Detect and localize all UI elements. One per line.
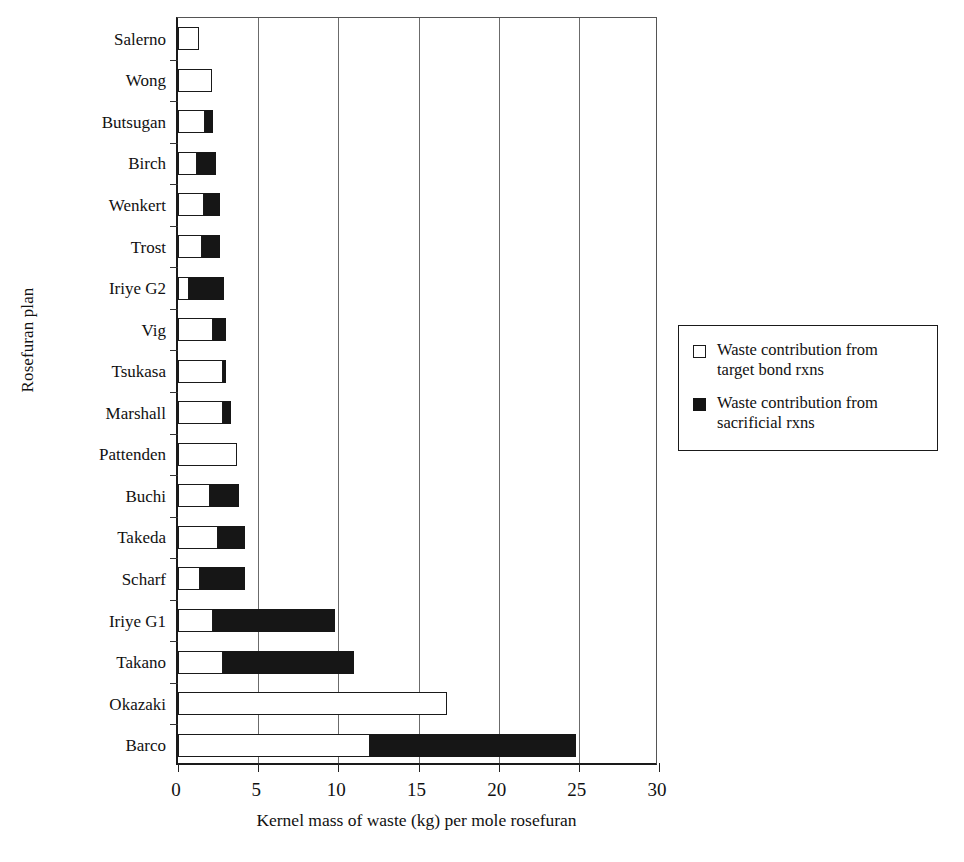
bar-row: Salerno — [178, 18, 656, 60]
y-axis-category-label: Iriye G2 — [109, 280, 166, 297]
chart-figure: Rosefuran plan SalernoWongButsuganBirchW… — [0, 0, 964, 862]
x-axis-tick-label: 20 — [487, 779, 506, 801]
y-axis-tick — [170, 475, 178, 476]
bar-row: Vig — [178, 309, 656, 351]
bar-row: Trost — [178, 226, 656, 268]
bar-row: Wenkert — [178, 184, 656, 226]
bar-row: Takano — [178, 641, 656, 683]
y-axis-tick — [170, 558, 178, 559]
y-axis-category-label: Birch — [128, 155, 166, 172]
y-axis-category-label: Buchi — [125, 488, 166, 505]
bar-segment-sacrificial — [204, 193, 220, 216]
y-axis-tick — [170, 600, 178, 601]
legend-swatch-filled-square-icon — [693, 398, 706, 411]
y-axis-category-label: Wenkert — [109, 197, 166, 214]
y-axis-tick — [170, 267, 178, 268]
y-axis-category-label: Vig — [142, 322, 166, 339]
bar-segment-target-bond — [178, 277, 189, 300]
bar-segment-target-bond — [178, 443, 237, 466]
bar-segment-sacrificial — [200, 567, 245, 590]
x-axis-tick-label: 0 — [171, 779, 181, 801]
bar-segment-sacrificial — [205, 110, 213, 133]
y-axis-tick — [170, 309, 178, 310]
bar-segment-sacrificial — [202, 235, 220, 258]
y-axis-tick — [170, 60, 178, 61]
x-axis-tick-label: 15 — [407, 779, 426, 801]
y-axis-category-label: Takano — [116, 654, 166, 671]
y-axis-category-label: Tsukasa — [111, 363, 166, 380]
bar-segment-sacrificial — [213, 609, 335, 632]
bar-row: Butsugan — [178, 101, 656, 143]
bar-segment-target-bond — [178, 69, 212, 92]
bar-segment-target-bond — [178, 193, 204, 216]
x-axis-tick-label: 30 — [648, 779, 667, 801]
bar-segment-target-bond — [178, 692, 447, 715]
y-axis-tick — [170, 517, 178, 518]
bar-segment-target-bond — [178, 152, 197, 175]
bar-row: Birch — [178, 143, 656, 185]
y-axis-category-label: Pattenden — [99, 446, 166, 463]
y-axis-category-label: Salerno — [114, 31, 166, 48]
bar-row: Scharf — [178, 558, 656, 600]
bar-segment-target-bond — [178, 484, 210, 507]
y-axis-title: Rosefuran plan — [18, 260, 38, 420]
bar-row: Buchi — [178, 475, 656, 517]
y-axis-tick — [170, 350, 178, 351]
y-axis-tick — [170, 724, 178, 725]
y-axis-category-label: Butsugan — [102, 114, 166, 131]
bar-segment-sacrificial — [197, 152, 216, 175]
y-axis-category-label: Barco — [125, 737, 166, 754]
y-axis-category-label: Trost — [131, 239, 166, 256]
bar-segment-target-bond — [178, 651, 223, 674]
y-axis-category-label: Wong — [126, 72, 166, 89]
bar-row: Okazaki — [178, 683, 656, 725]
bar-segment-sacrificial — [223, 360, 226, 383]
bar-row: Takeda — [178, 517, 656, 559]
legend: Waste contribution fromtarget bond rxnsW… — [678, 325, 938, 451]
bar-row: Barco — [178, 724, 656, 766]
y-axis-category-label: Marshall — [106, 405, 166, 422]
x-axis-tick-label: 10 — [327, 779, 346, 801]
bar-segment-target-bond — [178, 235, 202, 258]
legend-swatch-open-square-icon — [693, 345, 706, 358]
bar-row: Pattenden — [178, 434, 656, 476]
bar-segment-target-bond — [178, 526, 218, 549]
y-axis-tick — [170, 434, 178, 435]
y-axis-tick — [170, 101, 178, 102]
bar-row: Tsukasa — [178, 350, 656, 392]
bar-segment-target-bond — [178, 318, 213, 341]
x-axis-tick-label: 25 — [567, 779, 586, 801]
bar-segment-target-bond — [178, 27, 199, 50]
bar-segment-sacrificial — [210, 484, 239, 507]
bar-segment-sacrificial — [370, 734, 575, 757]
plot-area: SalernoWongButsuganBirchWenkertTrostIriy… — [176, 17, 657, 765]
legend-entry: Waste contribution fromtarget bond rxns — [693, 340, 937, 380]
y-axis-tick — [170, 641, 178, 642]
bar-segment-sacrificial — [189, 277, 224, 300]
bar-segment-sacrificial — [223, 651, 354, 674]
y-axis-category-label: Takeda — [117, 529, 166, 546]
y-axis-category-label: Okazaki — [109, 696, 166, 713]
bar-row: Marshall — [178, 392, 656, 434]
y-axis-tick — [170, 392, 178, 393]
legend-label: Waste contribution fromtarget bond rxns — [717, 340, 878, 380]
bar-row: Wong — [178, 60, 656, 102]
bar-segment-sacrificial — [218, 526, 245, 549]
y-axis-tick — [170, 683, 178, 684]
legend-label: Waste contribution fromsacrificial rxns — [717, 393, 878, 433]
bar-row: Iriye G2 — [178, 267, 656, 309]
y-axis-category-label: Scharf — [122, 571, 166, 588]
y-axis-tick — [170, 226, 178, 227]
y-axis-tick — [170, 143, 178, 144]
bar-segment-target-bond — [178, 110, 205, 133]
legend-entry: Waste contribution fromsacrificial rxns — [693, 393, 937, 433]
y-axis-tick — [170, 184, 178, 185]
x-axis-title: Kernel mass of waste (kg) per mole rosef… — [176, 810, 657, 831]
bar-segment-target-bond — [178, 401, 223, 424]
bar-segment-sacrificial — [223, 401, 231, 424]
x-axis-tick — [659, 763, 660, 772]
bar-segment-target-bond — [178, 734, 370, 757]
bar-segment-target-bond — [178, 567, 200, 590]
x-axis-tick-label: 5 — [251, 779, 261, 801]
bar-segment-sacrificial — [213, 318, 226, 341]
